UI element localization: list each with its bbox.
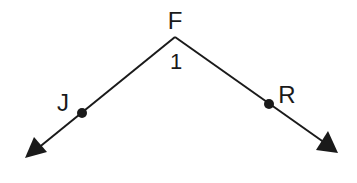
- angle-diagram: F 1 J R: [0, 0, 357, 183]
- angle-label: 1: [170, 49, 182, 74]
- ray-fr: [175, 37, 325, 143]
- point-j: [77, 108, 87, 118]
- point-r: [264, 99, 274, 109]
- arrowhead-left-icon: [25, 137, 47, 158]
- point-j-label: J: [57, 89, 69, 116]
- point-r-label: R: [278, 81, 295, 108]
- vertex-label: F: [168, 7, 183, 34]
- arrowhead-right-icon: [316, 131, 338, 153]
